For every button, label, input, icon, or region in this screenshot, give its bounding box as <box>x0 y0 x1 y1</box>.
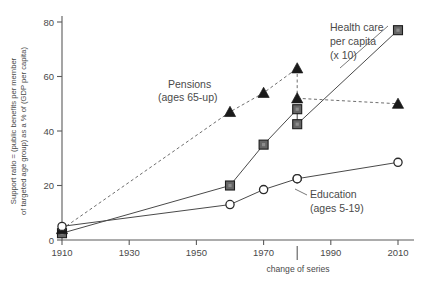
series-line <box>297 98 398 103</box>
chart-axes <box>57 16 414 260</box>
chart-figure: 191019301950197019902010 020406080 Suppo… <box>0 0 423 289</box>
data-point-square-inner <box>262 143 265 146</box>
data-point-square-inner <box>228 184 231 187</box>
y-tick-label: 20 <box>43 180 54 191</box>
y-axis-title-line: of targeted age group) as a % of (GDP pe… <box>19 47 28 215</box>
data-point-circle <box>58 222 66 230</box>
x-tick-label: 2010 <box>387 247 408 258</box>
education-label-line2: (ages 5-19) <box>310 202 364 214</box>
education-label-line1: Education <box>310 188 357 200</box>
y-axis-title-line: Support ratio = (public benefits per mem… <box>9 57 18 204</box>
y-tick-label: 0 <box>49 235 54 246</box>
data-point-triangle <box>292 93 303 103</box>
data-point-circle <box>394 158 402 166</box>
x-tick-label: 1990 <box>320 247 341 258</box>
support-ratio-line-chart: 191019301950197019902010 020406080 Suppo… <box>0 0 423 289</box>
data-point-square-inner <box>296 108 299 111</box>
series-line <box>62 109 297 233</box>
series-label-pensions: Pensions (ages 65-up) <box>158 78 218 103</box>
health-care-label-line3: (x 10) <box>330 49 357 61</box>
x-tick-label: 1930 <box>119 247 140 258</box>
x-tick-label: 1970 <box>253 247 274 258</box>
y-tick-label: 40 <box>43 126 54 137</box>
series-label-health-care: Health care per capita (x 10) <box>330 21 384 61</box>
x-tick-label: 1950 <box>186 247 207 258</box>
x-axis-tick-labels: 191019301950197019902010 <box>51 247 408 258</box>
data-point-square-inner <box>396 29 399 32</box>
data-point-circle <box>293 175 301 183</box>
x-axis-title: change of series <box>266 264 329 274</box>
education-leader <box>295 189 307 195</box>
y-tick-label: 80 <box>43 17 54 28</box>
y-axis-title: Support ratio = (public benefits per mem… <box>9 47 28 215</box>
data-point-circle <box>260 185 268 193</box>
data-point-triangle <box>258 87 269 97</box>
data-point-square-inner <box>296 123 299 126</box>
y-axis-tick-labels: 020406080 <box>43 17 54 246</box>
data-point-triangle <box>224 106 235 116</box>
health-care-label-line2: per capita <box>330 35 376 47</box>
health-care-label-line1: Health care <box>330 21 384 33</box>
y-tick-label: 60 <box>43 71 54 82</box>
data-point-circle <box>226 200 234 208</box>
pensions-label-line1: Pensions <box>168 78 211 90</box>
x-tick-label: 1910 <box>51 247 72 258</box>
series-line <box>297 162 398 178</box>
pensions-label-line2: (ages 65-up) <box>158 91 218 103</box>
data-point-triangle <box>292 63 303 73</box>
series-label-education: Education (ages 5-19) <box>310 188 364 214</box>
